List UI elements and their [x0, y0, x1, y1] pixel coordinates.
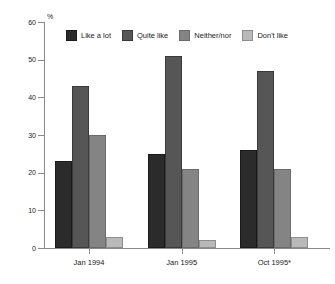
y-tick-label: 30: [2, 132, 36, 139]
legend-swatch-icon: [122, 30, 133, 41]
y-tick-label-wrap: 30: [0, 132, 36, 139]
legend-label: Like a lot: [81, 32, 111, 40]
legend-swatch-icon: [179, 30, 190, 41]
y-tick-label-wrap: 10: [0, 207, 36, 214]
y-tick-label: 0: [2, 245, 36, 252]
x-tick-label: Jan 1995: [142, 258, 222, 267]
y-tick-label-wrap: 20: [0, 169, 36, 176]
bar: [148, 154, 165, 248]
chart-legend: Like a lotQuite likeNeither/norDon't lik…: [66, 30, 299, 41]
legend-item: Like a lot: [66, 30, 111, 41]
legend-label: Don't like: [257, 32, 288, 40]
x-tick-label: Jan 1994: [49, 258, 129, 267]
y-tick-label-wrap: 40: [0, 94, 36, 101]
bar: [55, 161, 72, 248]
x-tick-mark: [274, 249, 275, 254]
bar: [257, 71, 274, 248]
plot-area: [44, 22, 322, 248]
y-tick-label: 20: [2, 169, 36, 176]
bar: [199, 240, 216, 248]
y-tick-label: 60: [2, 19, 36, 26]
legend-swatch-icon: [242, 30, 253, 41]
y-tick-label-wrap: 60: [0, 19, 36, 26]
bar: [72, 86, 89, 248]
legend-item: Quite like: [122, 30, 168, 41]
bar: [291, 237, 308, 248]
y-tick-label: 50: [2, 56, 36, 63]
legend-label: Quite like: [137, 32, 168, 40]
x-tick-mark: [89, 249, 90, 254]
legend-label: Neither/nor: [194, 32, 231, 40]
y-tick-mark: [38, 248, 44, 249]
bar: [182, 169, 199, 248]
x-axis-line: [44, 248, 330, 249]
y-axis-unit-label: %: [47, 13, 53, 20]
y-tick-label-wrap: 0: [0, 245, 36, 252]
bar-chart: % 0102030405060 Like a lotQuite likeNeit…: [0, 0, 335, 284]
legend-swatch-icon: [66, 30, 77, 41]
bar: [89, 135, 106, 248]
bar: [240, 150, 257, 248]
legend-item: Neither/nor: [179, 30, 231, 41]
y-tick-label: 10: [2, 207, 36, 214]
x-tick-label: Oct 1995*: [234, 258, 314, 267]
bar: [106, 237, 123, 248]
bar: [165, 56, 182, 248]
bar: [274, 169, 291, 248]
y-tick-label-wrap: 50: [0, 56, 36, 63]
x-tick-mark: [182, 249, 183, 254]
legend-item: Don't like: [242, 30, 288, 41]
y-tick-label: 40: [2, 94, 36, 101]
